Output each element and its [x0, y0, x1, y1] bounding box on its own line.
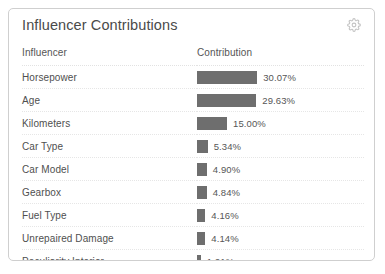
contribution-value-label: 5.34%: [214, 141, 241, 152]
column-header-influencer: Influencer: [22, 41, 197, 66]
contribution-cell: 29.63%: [197, 89, 364, 112]
contribution-cell: 4.90%: [197, 158, 364, 181]
table-row: Fuel Type4.16%: [22, 204, 364, 227]
influencer-contributions-card: Influencer Contributions Influencer Cont…: [8, 8, 375, 261]
influencer-name: Gearbox: [22, 181, 197, 204]
contribution-value-label: 4.16%: [211, 210, 238, 221]
contribution-bar: [197, 117, 227, 130]
table-body: Horsepower30.07%Age29.63%Kilometers15.00…: [22, 66, 364, 262]
contribution-cell: 15.00%: [197, 112, 364, 135]
contribution-bar: [197, 209, 205, 222]
influencer-name: Unrepaired Damage: [22, 227, 197, 250]
contribution-value-label: 30.07%: [263, 72, 296, 83]
column-header-contribution: Contribution: [197, 41, 364, 66]
table-row: Unrepaired Damage4.14%: [22, 227, 364, 250]
table-header-row: Influencer Contribution: [22, 41, 364, 66]
contribution-value-label: 15.00%: [233, 118, 266, 129]
influencer-name: Fuel Type: [22, 204, 197, 227]
contribution-cell: 30.07%: [197, 66, 364, 89]
contribution-cell: 4.84%: [197, 181, 364, 204]
table-row: Kilometers15.00%: [22, 112, 364, 135]
contribution-bar: [197, 232, 205, 245]
influencer-name: Car Type: [22, 135, 197, 158]
contribution-cell: 4.16%: [197, 204, 364, 227]
contribution-value-label: 4.90%: [213, 164, 240, 175]
table-row: Peculiarity Interior1.91%: [22, 250, 364, 262]
contribution-value-label: 29.63%: [262, 95, 295, 106]
influencer-name: Horsepower: [22, 66, 197, 89]
contribution-bar: [197, 186, 207, 199]
contributions-table-wrap: Influencer Contribution Horsepower30.07%…: [9, 41, 374, 261]
table-row: Gearbox4.84%: [22, 181, 364, 204]
contribution-value-label: 1.91%: [207, 256, 234, 262]
influencer-name: Car Model: [22, 158, 197, 181]
influencer-name: Peculiarity Interior: [22, 250, 197, 262]
influencer-name: Age: [22, 89, 197, 112]
page-title: Influencer Contributions: [22, 17, 178, 33]
contribution-value-label: 4.84%: [213, 187, 240, 198]
contributions-table: Influencer Contribution Horsepower30.07%…: [22, 41, 364, 261]
contribution-cell: 1.91%: [197, 250, 364, 262]
card-header: Influencer Contributions: [9, 9, 374, 41]
contribution-bar: [197, 140, 208, 153]
contribution-bar: [197, 94, 256, 107]
contribution-bar: [197, 255, 201, 262]
table-row: Horsepower30.07%: [22, 66, 364, 89]
contribution-value-label: 4.14%: [211, 233, 238, 244]
contribution-cell: 5.34%: [197, 135, 364, 158]
contribution-cell: 4.14%: [197, 227, 364, 250]
gear-icon[interactable]: [346, 17, 362, 33]
table-row: Age29.63%: [22, 89, 364, 112]
table-row: Car Type5.34%: [22, 135, 364, 158]
contribution-bar: [197, 163, 207, 176]
table-row: Car Model4.90%: [22, 158, 364, 181]
influencer-name: Kilometers: [22, 112, 197, 135]
contribution-bar: [197, 71, 257, 84]
